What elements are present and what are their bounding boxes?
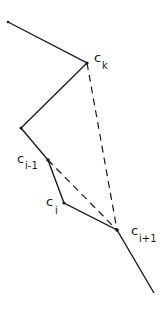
diagram-svg: c k c i-1 c i c i+1 [0, 0, 168, 314]
label-ci-sub: i [55, 205, 58, 216]
vertex-v [19, 126, 22, 129]
vertex-ci-1 [46, 158, 50, 162]
label-ci-main: c [46, 194, 53, 209]
solid-chain [8, 22, 154, 293]
vertex-ci+1 [115, 228, 119, 232]
polygonal-chain-diagram: c k c i-1 c i c i+1 [0, 0, 168, 314]
label-ci+1-main: c [131, 223, 138, 238]
vertex-start [7, 21, 10, 24]
label-ck-main: c [94, 50, 101, 65]
vertex-ci [62, 201, 65, 204]
label-ck-sub: k [102, 60, 108, 71]
label-ci-1-main: c [17, 151, 24, 166]
vertex-ck [85, 61, 88, 64]
label-ci-1-sub: i-1 [25, 160, 38, 171]
label-ci+1-sub: i+1 [139, 233, 157, 244]
